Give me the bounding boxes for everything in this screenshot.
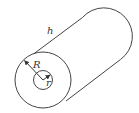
- hollow-cylinder-diagram: h R r: [0, 0, 139, 113]
- back-end-arc: [83, 8, 133, 60]
- top-edge-line: [30, 18, 83, 58]
- outer-radius-label: R: [32, 59, 41, 70]
- bottom-edge-line: [66, 60, 121, 102]
- length-label: h: [47, 25, 53, 36]
